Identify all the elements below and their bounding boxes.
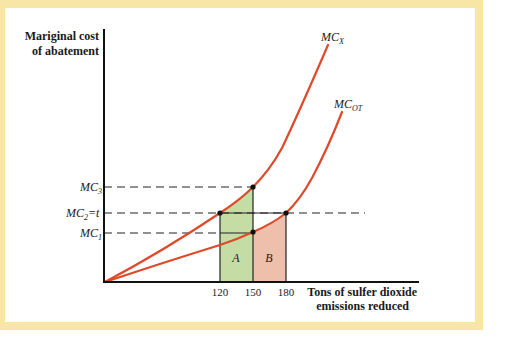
abatement-chart: Mariginal cost of abatement MC3 MC2=t MC… <box>0 0 505 340</box>
y-axis-title-line2: of abatement <box>32 44 99 58</box>
point-mc2-120 <box>217 210 222 215</box>
x-tick-180: 180 <box>278 286 295 298</box>
x-axis-title-line2: emissions reduced <box>316 299 409 313</box>
area-b-label: B <box>265 251 273 265</box>
point-mc2-180 <box>283 210 288 215</box>
y-axis-title-line1: Mariginal cost <box>25 29 99 43</box>
mc-x-label: MCX <box>320 30 345 46</box>
y-tick-mc2: MC2=t <box>65 206 100 222</box>
area-a-label: A <box>231 251 240 265</box>
y-tick-mc1: MC1 <box>79 226 102 242</box>
mc-ot-label: MCOT <box>333 97 363 113</box>
y-tick-mc3: MC3 <box>79 180 102 196</box>
point-mc1-150 <box>250 229 255 234</box>
x-axis-title-line1: Tons of sulfer dioxide <box>307 285 417 299</box>
x-tick-120: 120 <box>212 286 229 298</box>
point-mc3-150 <box>250 184 255 189</box>
x-tick-150: 150 <box>245 286 262 298</box>
